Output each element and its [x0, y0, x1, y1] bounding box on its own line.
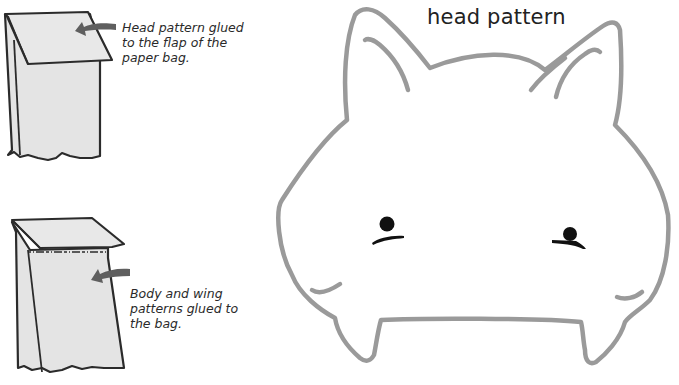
eye-left: [372, 217, 404, 246]
head-pattern-outline: [278, 9, 668, 363]
caption-body-bag: Body and wing patterns glued to the bag.: [130, 286, 238, 331]
caption-line: Head pattern glued: [122, 20, 244, 35]
eye-right: [552, 227, 586, 249]
caption-line: patterns glued to: [130, 301, 238, 316]
caption-line: the bag.: [130, 316, 238, 331]
head-pattern-title: head pattern: [427, 5, 566, 29]
caption-line: Body and wing: [130, 286, 238, 301]
paper-bag-bottom-illustration: [12, 218, 130, 372]
caption-head-flap: Head pattern glued to the flap of the pa…: [122, 20, 244, 65]
paper-bag-top-illustration: [5, 12, 116, 160]
caption-line: paper bag.: [122, 50, 244, 65]
illustration-canvas: [0, 0, 679, 385]
caption-line: to the flap of the: [122, 35, 244, 50]
